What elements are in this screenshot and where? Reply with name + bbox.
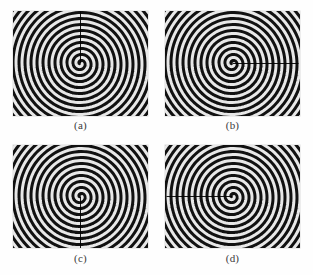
spiral-panel-d	[165, 145, 300, 248]
spiral-graphic-b	[165, 11, 300, 116]
panel-caption-d: (d)	[165, 252, 300, 264]
panel-caption-b: (b)	[165, 119, 300, 131]
spiral-panel-c	[13, 145, 148, 248]
spiral-graphic-c	[13, 145, 148, 248]
spiral-graphic-a	[13, 11, 148, 116]
spiral-graphic-d	[165, 145, 300, 248]
panel-caption-c: (c)	[13, 252, 148, 264]
panel-caption-a: (a)	[13, 119, 148, 131]
figure-container: (a) (b) (c) (d)	[0, 0, 313, 275]
spiral-panel-b	[165, 11, 300, 116]
spiral-panel-a	[13, 11, 148, 116]
